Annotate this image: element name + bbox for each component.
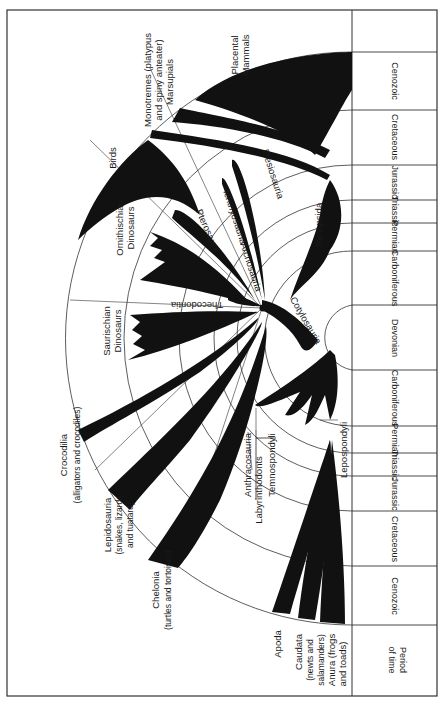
label-placental-1: Placental [229,35,240,74]
label-ornithischian-2: Dinosaurs [125,206,136,249]
phylogeny-diagram: Cenozoic Cretaceous Jurassic Triassic Pe… [0,0,445,704]
label-chelonia-1: Chelonia [150,571,161,609]
label-temnospondyli: Temnospondyli [266,433,277,496]
label-marsupials: Marsupials [164,59,175,105]
label-lepidosauria-3: and tuatara) [125,502,135,548]
label-synapsida: Synapsida [313,202,324,247]
label-caudata-3: salamanders) [316,634,326,686]
label-monotremes-1: Monotremes (platypus [142,33,153,127]
period-jurassic-lower: Jurassic [390,477,400,511]
label-anthracosauria: Anthracosauria [242,432,253,497]
label-labyrinthodonts: Labyrinthodonts [253,456,264,524]
label-monotremes-2: and spiny anteater) [153,39,164,120]
period-header-line2: of time [387,646,397,673]
label-crocodilia-1: Crocodilia [58,433,69,476]
label-placental-2: Mammals [240,34,251,75]
period-header-line1: Period [398,647,408,673]
period-permian-upper: Permian [390,220,400,254]
label-lepospondyli: Lepospondyli [338,422,349,478]
archosaur-node [260,305,267,312]
period-carboniferous-lower: Carboniferous [390,370,400,427]
label-saurischian-2: Dinosaurs [112,309,123,352]
label-ornithischian-1: Ornithischian [114,200,125,255]
period-cenozoic-upper: Cenozoic [390,62,400,100]
label-saurischian-1: Saurischian [101,306,112,356]
period-triassic-lower: Triassic [390,450,400,481]
period-cenozoic-lower: Cenozoic [390,577,400,615]
label-crocodilia-2: (alligators and crocodiles) [72,406,82,503]
period-carboniferous-upper: Carboniferous [390,250,400,307]
label-apoda: Apoda [272,630,283,658]
label-thecodontia: Thecodontia [170,300,223,311]
ornithischian-shape [140,232,252,305]
period-devonian: Devonian [390,319,400,357]
label-lepidosauria-2: (snakes, lizards [114,495,124,554]
period-cretaceous-upper: Cretaceous [390,114,400,161]
placental-mammals-shape [195,52,352,155]
period-cretaceous-lower: Cretaceous [390,516,400,563]
label-caudata-2: (newts and [305,639,315,681]
label-caudata-1: Caudata [293,633,304,670]
label-anura-1: Anura (frogs [326,634,337,687]
label-birds: Birds [107,147,118,169]
label-anura-2: and toads) [337,642,348,687]
time-scale-labels: Cenozoic Cretaceous Jurassic Triassic Pe… [387,62,408,673]
period-jurassic-upper: Jurassic [390,165,400,199]
label-lepidosauria-1: Lepidosauria [102,497,113,552]
label-chelonia-2: (turtles and tortoises) [163,550,173,630]
